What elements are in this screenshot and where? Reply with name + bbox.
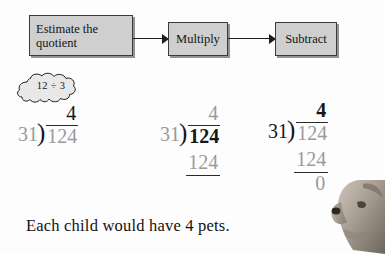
remainder: 0: [315, 173, 325, 195]
arrow-shaft: [133, 38, 163, 39]
flow-arrow-estimate-to-multiply: [133, 34, 169, 44]
product: 124: [294, 149, 328, 173]
long-division-problem-1: 4 31 ) 124: [18, 103, 78, 148]
answer-caption: Each child would have 4 pets.: [26, 216, 230, 236]
product-row: 124: [268, 149, 328, 173]
quotient-digit: 4: [66, 103, 76, 124]
product: 124: [186, 152, 220, 176]
divisor: 31: [268, 121, 288, 142]
dividend: 124: [188, 125, 220, 147]
flow-step-estimate-label: Estimate the quotient: [36, 22, 98, 50]
long-division-problem-3: 4 31 ) 124 124 0: [268, 100, 328, 195]
divisor-dividend-row: 31 ) 124: [160, 124, 220, 148]
quotient-digit: 4: [316, 100, 326, 121]
flow-step-subtract-label: Subtract: [285, 32, 327, 46]
long-division-problem-2: 4 31 ) 124 124: [160, 103, 220, 176]
division-bracket-icon: ): [37, 123, 45, 143]
thought-bubble: 12 ÷ 3: [14, 71, 88, 105]
flow-step-subtract: Subtract: [275, 22, 337, 56]
dog-head-illustration-icon: [329, 180, 385, 254]
product-row: 124: [160, 152, 220, 176]
quotient-digit: 4: [208, 103, 218, 124]
quotient-row: 4: [268, 100, 328, 121]
flow-step-multiply: Multiply: [168, 22, 228, 56]
thought-bubble-text: 12 ÷ 3: [14, 80, 88, 91]
dog-photo: [329, 180, 385, 254]
division-bracket-icon: ): [179, 123, 187, 143]
flow-step-estimate: Estimate the quotient: [29, 15, 133, 56]
worksheet-page: Estimate the quotient Multiply Subtract …: [0, 0, 385, 254]
remainder-row: 0: [268, 173, 328, 195]
quotient-row: 4: [160, 103, 220, 124]
flow-step-multiply-label: Multiply: [176, 32, 220, 46]
divisor-dividend-row: 31 ) 124: [18, 124, 78, 148]
arrow-shaft: [228, 38, 270, 39]
flow-arrow-multiply-to-subtract: [228, 34, 276, 44]
divisor-dividend-row: 31 ) 124: [268, 121, 328, 145]
divisor: 31: [18, 124, 38, 145]
dividend: 124: [296, 122, 328, 144]
quotient-row: 4: [18, 103, 78, 124]
dividend: 124: [46, 125, 78, 147]
division-bracket-icon: ): [287, 120, 295, 140]
divisor: 31: [160, 124, 180, 145]
